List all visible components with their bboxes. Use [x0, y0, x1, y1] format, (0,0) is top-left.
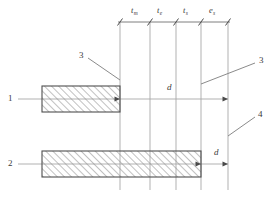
- callout-label-3-left: 3: [79, 51, 84, 60]
- dimension-label-t-s: ts: [183, 6, 188, 15]
- row-2-group: [18, 151, 228, 177]
- d-label-lower: d: [214, 148, 219, 157]
- row-2-arrow-right: [223, 162, 229, 167]
- row-1-arrow-right: [223, 97, 229, 102]
- dimension-label-t-e: te: [157, 6, 162, 15]
- leader-4: [228, 117, 255, 136]
- row-label-1: 1: [8, 94, 13, 103]
- bar-2: [42, 151, 201, 177]
- technical-diagram: tm te ts es 1 2 3 3 4 d d: [0, 0, 275, 199]
- callout-label-4: 4: [258, 110, 263, 119]
- callout-label-3-right: 3: [259, 56, 264, 65]
- dimension-line-group: [118, 19, 231, 26]
- dimension-label-e-s: es: [209, 6, 215, 15]
- bar-1: [42, 86, 120, 112]
- row-label-2: 2: [8, 159, 13, 168]
- dimension-label-t-m: tm: [131, 6, 137, 15]
- diagram-canvas: [0, 0, 275, 199]
- d-label-upper: d: [167, 83, 172, 92]
- leader-3-left: [88, 58, 120, 80]
- row-1-group: [18, 86, 228, 112]
